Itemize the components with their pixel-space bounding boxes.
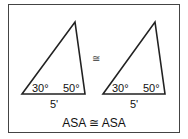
right-angle-50-label: 50°	[143, 83, 160, 94]
caption-asa: ASA ≅ ASA	[0, 117, 188, 129]
right-base-label: 5'	[130, 99, 138, 110]
right-angle-30-label: 30°	[112, 83, 129, 94]
congruent-symbol: ≅	[92, 54, 100, 64]
left-base-label: 5'	[50, 99, 58, 110]
left-angle-30-label: 30°	[32, 83, 49, 94]
left-angle-50-label: 50°	[63, 83, 80, 94]
